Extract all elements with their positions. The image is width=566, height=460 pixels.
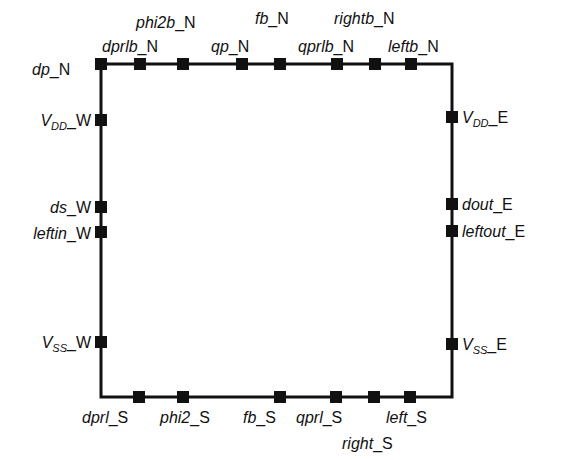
pin-leftb_n	[405, 58, 417, 70]
pin-label-leftin-w: leftin_W	[33, 225, 91, 243]
pin-label-right-s: right_S	[342, 435, 393, 453]
pin-qprl_s	[330, 391, 342, 403]
pin-label-qprlb-n: qprlb_N	[298, 38, 354, 56]
pin-phi2_s	[177, 391, 189, 403]
pin-label-dprlb-n: dprlb_N	[102, 38, 158, 56]
pin-label-vdd-w: VDD_W	[40, 112, 91, 131]
pin-fb_s	[274, 391, 286, 403]
pin-vss_w	[95, 336, 107, 348]
pin-qp_n	[236, 58, 248, 70]
pin-leftout_e	[446, 225, 458, 237]
pin-label-left-s: left_S	[386, 409, 427, 427]
pin-label-qprl-s: qprl_S	[296, 409, 342, 427]
pin-dprlb_n	[134, 58, 146, 70]
pin-dp_n	[95, 58, 107, 70]
pin-dprl_s	[133, 391, 145, 403]
pin-ds_w	[95, 201, 107, 213]
pin-label-dp-n: dp_N	[32, 61, 70, 79]
pin-diagram: dp_N dprlb_N phi2b_N qp_N fb_N qprlb_N r…	[0, 0, 566, 460]
pin-label-rightb-n: rightb_N	[334, 10, 394, 28]
pin-vdd_e	[446, 111, 458, 123]
pin-vdd_w	[95, 114, 107, 126]
pin-left_s	[404, 391, 416, 403]
pin-label-phi2b-n: phi2b_N	[136, 14, 196, 32]
pin-label-ds-w: ds_W	[50, 199, 91, 217]
pin-label-vss-e: VSS_E	[462, 336, 507, 355]
pin-leftin_w	[95, 226, 107, 238]
pin-label-fb-n: fb_N	[255, 10, 289, 28]
pin-label-leftout-e: leftout_E	[462, 223, 525, 241]
pin-label-vdd-e: VDD_E	[462, 109, 508, 128]
pin-right_s	[368, 391, 380, 403]
pin-label-vss-w: VSS_W	[42, 334, 91, 353]
pin-vss_e	[446, 338, 458, 350]
pin-label-fb-s: fb_S	[243, 409, 276, 427]
pin-dout_e	[446, 198, 458, 210]
pin-phi2b_n	[177, 58, 189, 70]
pin-label-leftb-n: leftb_N	[388, 38, 439, 56]
pin-label-qp-n: qp_N	[211, 38, 249, 56]
pin-qprlb_n	[331, 58, 343, 70]
pin-fb_n	[274, 58, 286, 70]
pin-label-dprl-s: dprl_S	[82, 409, 128, 427]
cell-boundary	[101, 64, 452, 397]
pin-label-dout-e: dout_E	[462, 196, 513, 214]
pin-markers	[95, 58, 458, 403]
pin-rightb_n	[369, 58, 381, 70]
pin-label-phi2-s: phi2_S	[160, 409, 210, 427]
